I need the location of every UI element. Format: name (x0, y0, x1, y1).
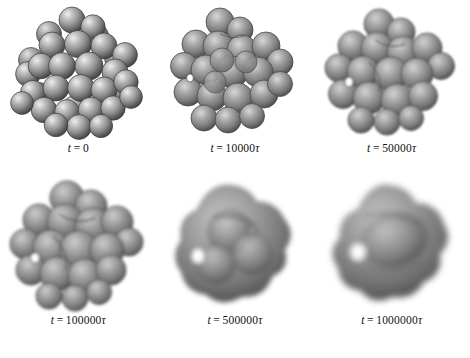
panel-1-caption-eq: = (71, 142, 83, 154)
panel-3-caption-value: 50000 (382, 142, 412, 154)
panel-5-caption: t=500000τ (207, 314, 262, 326)
panel-4-render (3, 172, 153, 318)
panel-3-caption: t=50000τ (367, 142, 416, 154)
panel-5-render (160, 172, 310, 318)
panel-4-caption-value: 100000 (66, 314, 102, 326)
figure-container: t=0 (0, 0, 470, 358)
panel-6: t=1000000τ (313, 172, 470, 344)
panel-6-caption-value: 1000000 (376, 314, 418, 326)
panel-6-caption: t=1000000τ (361, 314, 422, 326)
sphere-cluster (11, 7, 143, 139)
panel-3-caption-tau: τ (412, 142, 416, 154)
panel-2-caption-eq: = (214, 142, 226, 154)
panel-2: t=10000τ (157, 0, 314, 172)
panel-1-caption: t=0 (68, 142, 89, 154)
panel-6-caption-eq: = (365, 314, 377, 326)
panel-3: t=50000τ (313, 0, 470, 172)
panel-3-caption-eq: = (370, 142, 382, 154)
panel-1-caption-value: 0 (83, 142, 89, 154)
torus-like-surface (333, 186, 447, 300)
panel-2-caption: t=10000τ (210, 142, 259, 154)
panel-2-caption-value: 10000 (226, 142, 256, 154)
panel-3-render (317, 0, 467, 146)
panel-5-caption-value: 500000 (223, 314, 259, 326)
panel-1-render (3, 0, 153, 146)
panel-4-caption-eq: = (54, 314, 66, 326)
panel-2-render (160, 0, 310, 146)
fused-surface (170, 8, 293, 133)
panel-6-render (317, 172, 467, 318)
panel-5-caption-tau: τ (258, 314, 262, 326)
coarse-lobed-surface (10, 181, 143, 311)
lobed-surface (325, 9, 455, 135)
panel-1: t=0 (0, 0, 157, 172)
panel-4-caption-tau: τ (102, 314, 106, 326)
panel-2-caption-tau: τ (255, 142, 259, 154)
smooth-blob-surface (176, 186, 290, 302)
panel-5-caption-eq: = (211, 314, 223, 326)
panel-6-caption-tau: τ (418, 314, 422, 326)
panel-5: t=500000τ (157, 172, 314, 344)
panel-4: t=100000τ (0, 172, 157, 344)
figure-caption (0, 349, 470, 358)
panel-4-caption: t=100000τ (51, 314, 106, 326)
panel-grid: t=0 (0, 0, 470, 344)
